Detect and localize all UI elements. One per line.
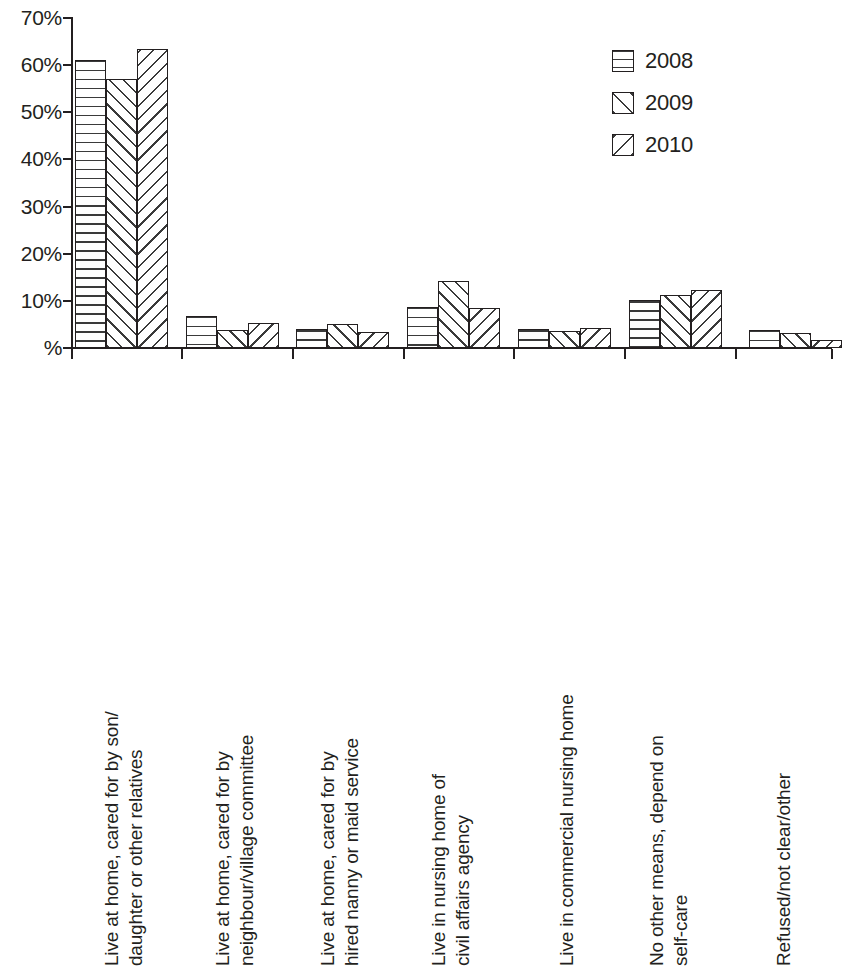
y-axis-tick (63, 300, 72, 302)
x-axis-category-label: Live in commercial nursing home (555, 666, 579, 966)
bar (549, 331, 580, 348)
bar (248, 323, 279, 348)
bar (217, 330, 248, 348)
x-axis-category-label-line: hired nanny or maid service (340, 666, 364, 966)
bar (327, 324, 358, 349)
bar-group (407, 18, 500, 348)
bar (749, 330, 780, 348)
chart-legend: 200820092010 (612, 40, 792, 166)
y-axis-tick (63, 17, 72, 19)
y-axis-tick-label: 50% (21, 101, 62, 122)
bar (186, 316, 217, 348)
x-axis-category-label: Live at home, cared for byhired nanny or… (316, 666, 364, 966)
bar-group (518, 18, 611, 348)
legend-item[interactable]: 2008 (612, 40, 792, 82)
x-axis-category-labels: Live at home, cared for by son/daughter … (0, 356, 839, 674)
bar (296, 329, 327, 348)
bar (358, 332, 389, 349)
bar (438, 281, 469, 348)
legend-swatch-icon (612, 92, 634, 114)
bar (518, 329, 549, 348)
y-axis-tick-label: 30% (21, 196, 62, 217)
x-axis-category-label-line: Live at home, cared for by (212, 752, 233, 966)
bar (691, 290, 722, 348)
x-axis-category-label: Live at home, cared for byneighbour/vill… (211, 666, 259, 966)
bar (75, 60, 106, 349)
y-axis-tick (63, 206, 72, 208)
bar (137, 49, 168, 348)
y-axis-tick (63, 64, 72, 66)
legend-item-label: 2009 (645, 92, 693, 114)
x-axis-category-label-line: Live in commercial nursing home (556, 694, 577, 966)
y-axis-tick-label: 10% (21, 290, 62, 311)
y-axis-tick-label: 20% (21, 243, 62, 264)
x-axis-category-label-line: Live at home, cared for by son/ (101, 711, 122, 966)
bar-group (296, 18, 389, 348)
bar-group (75, 18, 168, 348)
legend-item[interactable]: 2010 (612, 124, 792, 166)
x-axis-category-label: No other means, depend onself-care (645, 666, 693, 966)
y-axis-tick-label: 60% (21, 54, 62, 75)
bar (811, 340, 842, 348)
legend-item-label: 2008 (645, 50, 693, 72)
bar (580, 328, 611, 348)
legend-item-label: 2010 (645, 134, 693, 156)
x-axis-category-label-line: daughter or other relatives (124, 666, 148, 966)
x-axis-category-label-line: neighbour/village committee (235, 666, 259, 966)
legend-swatch-icon (612, 50, 634, 72)
y-axis-tick-label: % (44, 337, 62, 358)
legend-swatch-icon (612, 134, 634, 156)
bar (629, 300, 660, 348)
x-axis-category-label: Live in nursing home ofcivil affairs age… (427, 666, 475, 966)
y-axis-tick-label: 70% (21, 7, 62, 28)
y-axis-tick-label: 40% (21, 148, 62, 169)
y-axis-tick (63, 111, 72, 113)
x-axis-category-label: Refused/not clear/other (772, 666, 796, 966)
x-axis-category-label: Live at home, cared for by son/daughter … (100, 666, 148, 966)
x-axis-category-label-line: Live at home, cared for by (317, 752, 338, 966)
bar (780, 333, 811, 348)
x-axis-category-label-line: Live in nursing home of (428, 774, 449, 966)
bar (407, 307, 438, 348)
x-axis-category-label-line: Refused/not clear/other (773, 773, 794, 966)
bar (469, 308, 500, 348)
bar-group (186, 18, 279, 348)
x-axis-category-label-line: civil affairs agency (451, 666, 475, 966)
bar (660, 295, 691, 348)
y-axis-tick (63, 253, 72, 255)
legend-item[interactable]: 2009 (612, 82, 792, 124)
x-axis-category-label-line: self-care (669, 666, 693, 966)
bar (106, 79, 137, 348)
x-axis-category-label-line: No other means, depend on (646, 735, 667, 966)
y-axis-tick (63, 158, 72, 160)
